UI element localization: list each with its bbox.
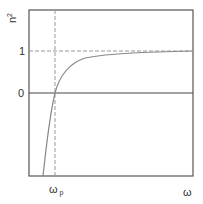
plot-svg: n2 1 0 ωp ω [0, 0, 203, 204]
tick-label-one: 1 [19, 45, 25, 57]
dispersion-curve [43, 51, 193, 176]
tick-label-omega-p: ωp [49, 183, 64, 197]
tick-label-zero: 0 [18, 87, 24, 99]
x-axis-label: ω [183, 186, 192, 198]
y-axis-label: n2 [6, 13, 18, 23]
